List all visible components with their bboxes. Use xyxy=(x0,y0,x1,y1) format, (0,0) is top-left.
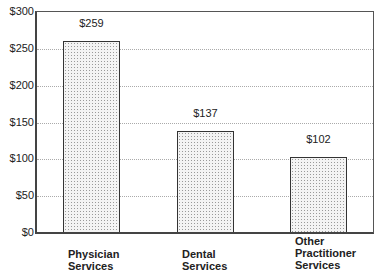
value-label: $137 xyxy=(176,107,236,119)
x-label-line: Services xyxy=(182,260,227,272)
y-tick-label: $150 xyxy=(0,116,34,128)
bar-0 xyxy=(63,41,120,232)
plot-area xyxy=(35,11,374,234)
x-category-label: PhysicianServices xyxy=(68,248,119,272)
x-label-line: Services xyxy=(68,260,119,272)
x-label-line: Services xyxy=(295,259,356,271)
y-tick-label: $50 xyxy=(0,189,34,201)
x-category-label: DentalServices xyxy=(182,248,227,272)
x-label-line: Other xyxy=(295,235,356,247)
y-tick-label: $0 xyxy=(0,226,34,238)
y-tick-label: $200 xyxy=(0,79,34,91)
x-label-line: Practitioner xyxy=(295,247,356,259)
x-label-line: Dental xyxy=(182,248,227,260)
bar-2 xyxy=(290,157,347,232)
bar-1 xyxy=(177,131,234,232)
value-label: $102 xyxy=(289,133,349,145)
y-tick-label: $300 xyxy=(0,5,34,17)
x-category-label: OtherPractitionerServices xyxy=(295,235,356,271)
y-tick-label: $250 xyxy=(0,42,34,54)
y-tick-label: $100 xyxy=(0,152,34,164)
value-label: $259 xyxy=(62,17,122,29)
x-label-line: Physician xyxy=(68,248,119,260)
